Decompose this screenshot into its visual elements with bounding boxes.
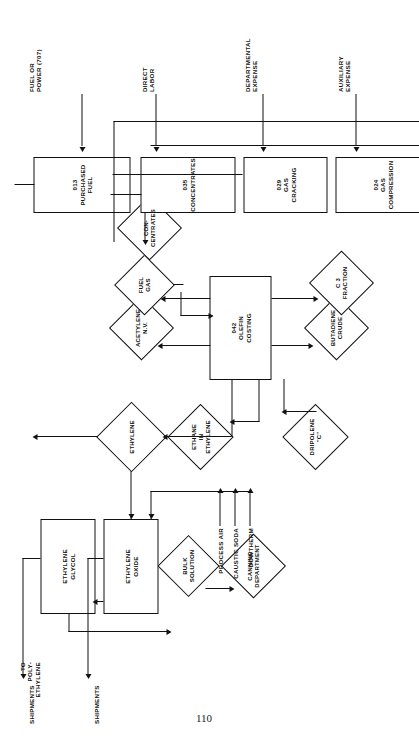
node-label: FUEL GAS [137,277,151,293]
connector-input-bus [150,145,419,146]
arrowhead-olefin-to-butadiene [308,343,313,349]
node-label: C 3 FRACTION [334,267,348,300]
connector-oxide-shipments-v [87,558,103,559]
node-label: CON- CENTRATES [142,209,156,247]
arrowhead-oxide-shipments [85,674,91,679]
connector-olefin-to-dripolene-h [283,379,284,412]
connector-purchasedfuel-out [14,184,34,185]
node-bulk-solution: BULK SOLUTION [158,518,218,614]
arrowhead-glycol-to-bulk [166,629,171,635]
node-label: ACETYLENE N.V. [134,309,148,347]
arrowhead-olefin-to-ethane [229,419,234,425]
connector-olefin-to-acetylene [160,345,210,346]
connector-concentrates-out [110,194,141,195]
connector-olefin-to-c3 [271,298,316,299]
arrowhead-auxiliary-expense [353,147,359,152]
connector-glycol-to-bulk-v [68,631,168,632]
node-gas-cracking: 029 GAS CRACKING [243,157,327,213]
arrowhead-ethylene-to-oxide [128,514,134,519]
connector-olefin-to-ethylene-h [231,379,232,437]
arrowhead-oxide-to-glycol [92,599,97,605]
node-label: ETHYLENE OXIDE [123,549,138,584]
connector-bulk-to-canning [205,588,231,589]
caption-shipments-oxide: SHIPMENTS [92,685,99,724]
caption-departmental-expense: DEPARTMENTAL EXPENSE [243,38,258,92]
arrowhead-ethylene-to-poly [32,434,37,440]
node-label: 042 OLEFIN COSTING [229,313,251,343]
connector-process-air [219,492,220,526]
flow-diagram-canvas: ETHYLENE GLYCOL ETHYLENE OXIDE SHIPMENTS… [0,0,419,742]
page-number: 110 [196,712,212,724]
connector-ethylene-to-poly [35,436,97,437]
arrowhead-olefin-to-acetylene [157,343,162,349]
node-label: 024 GAS COMPRESSION [371,161,393,210]
node-ethylene: ETHYLENE [97,387,165,487]
caption-direct-labor: DIRECT LABOR [140,67,155,92]
caption-auxiliary-expense: AUXILIARY EXPENSE [336,56,351,92]
node-ethane-in-ethylene: ETHANE IN ETHYLENE [168,387,232,487]
node-concentrates: 035 CONCENTRATES [140,157,235,213]
connector-fuelgas-feeder [173,284,183,285]
node-label: 035 CONCENTRATES [180,158,195,212]
node-label: ETHANE IN ETHYLENE [190,420,211,454]
node-label: DRIPOLENE "C" [308,419,322,456]
arrowhead-olefin-to-ethylene [162,434,167,440]
arrowhead-concentrates-to-olefin [208,313,213,319]
node-label: CANNING DEPARTMENT [246,544,260,587]
connector-olefin-to-dripolene-v2 [284,411,316,412]
node-ethylene-oxide: ETHYLENE OXIDE [103,519,158,614]
connector-direct-labor [155,94,156,122]
node-olefin-costing: 042 OLEFIN COSTING [209,276,271,380]
connector-olefin-to-ethane-h [258,379,259,422]
arrowhead-departmental-expense [260,147,266,152]
arrowhead-direct-labor [153,147,159,152]
connector-auxiliary-expense [355,94,356,146]
node-label: BUTADIENE CRUDE [329,310,343,346]
arrowhead-olefin-to-c3 [313,296,318,302]
connector-departmental-expense [262,94,263,146]
connector-olefin-to-fuelgas [163,298,210,299]
node-label: ETHYLENE [128,420,135,454]
connector-glycol-to-bulk-h [68,613,69,632]
connector-fuel-or-power [81,94,82,146]
connector-blowback-top [113,121,114,242]
caption-caustic-soda: CAUSTIC SODA [231,528,238,590]
connector-olefin-to-butadiene [271,345,311,346]
node-dripolene-c: DRIPOLENE "C" [283,387,347,487]
arrowhead-olefin-to-dripolene [281,409,286,415]
node-label: 029 GAS CRACKING [274,168,296,203]
node-label: 013 PURCHASED FUEL [70,165,92,206]
connector-caustic-soda [234,492,235,526]
arrowhead-feeds-to-oxide [148,514,154,519]
connector-oxide-shipments-h [87,558,88,674]
connector-concentrates-to-olefin-h [180,292,181,316]
caption-fuel-or-power: FUEL OR POWER (707) [27,49,42,92]
node-gas-compression: 024 GAS COMPRESSION [335,157,419,213]
connector-glycol-shipments-h [22,558,23,674]
node-label: ETHYLENE GLYCOL [60,549,75,584]
connector-dowtherm [249,492,250,526]
connector-feeds-bus [150,491,250,492]
node-label: BULK SOLUTION [181,550,195,583]
connector-gascracking-out [112,174,242,175]
arrowhead-olefin-to-fuelgas [160,296,165,302]
caption-process-air: PROCESS AIR [216,528,223,584]
arrowhead-fuel-or-power [79,147,85,152]
connector-glycol-shipments-v [22,558,40,559]
node-purchased-fuel: 013 PURCHASED FUEL [33,157,130,213]
connector-concentrates-to-olefin-v [180,315,212,316]
caption-to-polyethylene: TO POLY- ETHYLENE [18,662,40,722]
connector-blowback-bus [113,121,419,122]
connector-olefin-to-ethane-v [232,421,259,422]
connector-direct-labor-2 [155,122,156,146]
